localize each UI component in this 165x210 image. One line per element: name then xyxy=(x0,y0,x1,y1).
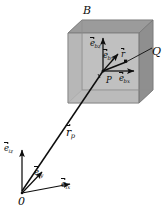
inertial-basis-x-subscript: ix xyxy=(66,184,71,190)
figure-root: B Q P 0 ebx eby ebz eix eiy eiz rp r xyxy=(0,0,165,210)
label-origin: 0 xyxy=(18,196,25,207)
body-basis-z-subscript: bz xyxy=(95,43,101,49)
body-basis-y-subscript: by xyxy=(108,55,114,61)
box-top-face xyxy=(68,20,153,33)
label-point-Q: Q xyxy=(152,46,161,57)
label-body-B: B xyxy=(83,5,91,16)
inertial-basis-y-subscript: iy xyxy=(39,172,44,178)
figure-canvas xyxy=(0,0,165,210)
label-body-basis-z: ebz xyxy=(90,39,101,48)
label-body-basis-x: ebx xyxy=(119,74,130,83)
label-position-vector-rp: rp xyxy=(66,127,76,138)
label-relative-vector-r: r xyxy=(121,50,125,59)
body-basis-x-subscript: bx xyxy=(124,78,130,84)
inertial-basis-z-subscript: iz xyxy=(9,148,13,154)
relative-vector-r-symbol: r xyxy=(121,49,125,59)
origin-point xyxy=(21,192,24,195)
point-p-marker xyxy=(102,70,105,73)
label-inertial-basis-x: eix xyxy=(61,180,71,189)
box-right-face xyxy=(139,20,153,103)
label-body-basis-y: eby xyxy=(103,51,114,60)
position-vector-rp-subscript: p xyxy=(71,132,75,140)
label-inertial-basis-z: eiz xyxy=(4,144,14,153)
rigid-body-box xyxy=(68,20,153,103)
label-point-P: P xyxy=(106,76,112,85)
label-inertial-basis-y: eiy xyxy=(34,168,44,177)
